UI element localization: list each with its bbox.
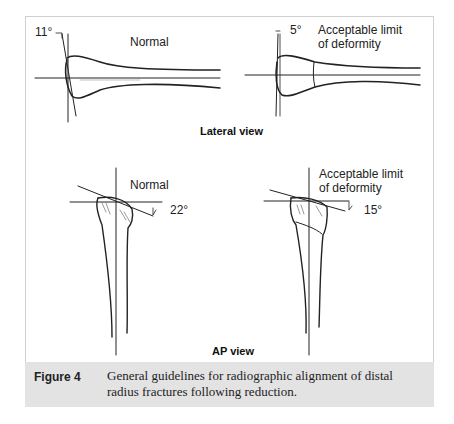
caption-label: Figure 4 (34, 370, 81, 384)
ap-normal-angle: 22° (170, 203, 188, 217)
ap-limit-label-2: of deformity (319, 181, 382, 195)
ap-normal-label: Normal (130, 178, 169, 192)
figure-caption: Figure 4 General guidelines for radiogra… (25, 362, 434, 407)
lateral-limit-label-1: Acceptable limit (318, 23, 402, 37)
lateral-limit-label-2: of deformity (318, 37, 381, 51)
ap-limit-angle: 15° (364, 203, 382, 217)
lateral-normal-label: Normal (130, 35, 169, 49)
figure-illustration (0, 0, 454, 424)
ap-view-label: AP view (212, 344, 254, 358)
lateral-normal-angle: 11° (35, 25, 52, 39)
lateral-normal-bone (35, 33, 220, 122)
lateral-view-label: Lateral view (200, 124, 263, 138)
caption-text: General guidelines for radiographic alig… (107, 368, 427, 400)
ap-normal-bone (70, 168, 162, 355)
ap-limit-bone (264, 168, 352, 355)
lateral-limit-angle: 5° (290, 23, 301, 37)
ap-limit-label-1: Acceptable limit (319, 167, 403, 181)
